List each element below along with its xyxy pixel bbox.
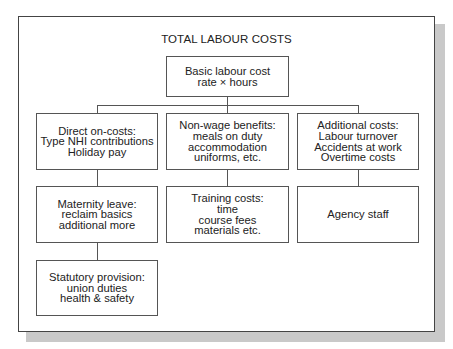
connector-col1-row1-row2 [97,169,98,186]
box-line: Overtime costs [321,152,396,163]
box-agency-staff: Agency staff [297,186,419,243]
connector-to-col1 [97,105,98,113]
root-box-basic-labour-cost: Basic labour cost rate × hours [166,56,289,97]
connector-root-down [227,96,228,105]
connector-col1-row2-row3 [97,242,98,260]
box-line: Agency staff [327,209,388,220]
connector-horizontal-bar [97,105,359,106]
box-maternity-leave: Maternity leave: reclaim basics addition… [36,186,158,243]
box-non-wage-benefits: Non-wage benefits: meals on duty accommo… [166,113,289,170]
box-additional-costs: Additional costs: Labour turnover Accide… [297,113,419,170]
box-statutory-provision: Statutory provision: union duties health… [36,260,158,316]
connector-col2-row1-row2 [227,169,228,186]
connector-col3-row1-row2 [358,169,359,186]
connector-to-col2 [227,105,228,113]
box-line: Labour turnover [319,131,398,142]
box-line: health & safety [60,293,134,304]
diagram-title: TOTAL LABOUR COSTS [0,33,453,45]
box-line: additional more [59,220,136,231]
box-line: time [217,204,238,215]
box-training-costs: Training costs: time course fees materia… [166,186,289,243]
box-line: materials etc. [194,225,261,236]
box-line: Basic labour cost [185,66,270,77]
connector-to-col3 [358,105,359,113]
box-direct-on-costs: Direct on-costs: Type NHI contributions … [36,113,158,170]
box-line: Holiday pay [68,147,126,158]
box-line: rate × hours [197,77,257,88]
box-line: uniforms, etc. [194,152,261,163]
box-line: meals on duty [193,131,263,142]
